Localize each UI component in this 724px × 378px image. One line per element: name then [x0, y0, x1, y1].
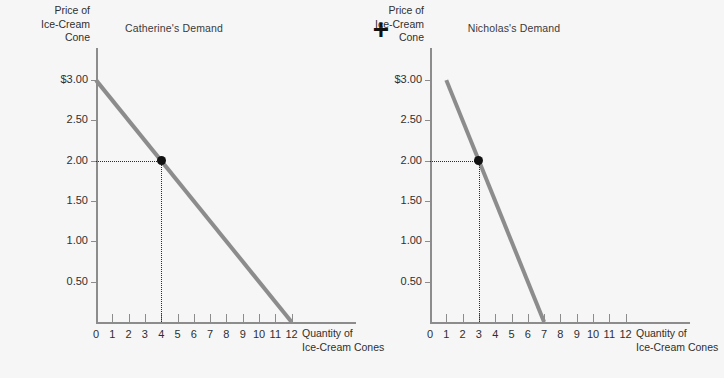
- y-axis-title-catherine: Price of Ice-Cream Cone: [10, 4, 90, 45]
- price-guide-line-nicholas: [430, 161, 479, 162]
- x-tick-mark: [495, 314, 496, 322]
- x-tick-mark: [446, 314, 447, 322]
- plot-area-nicholas: Price of Ice-Cream Cone Quantity of Ice-…: [430, 48, 690, 328]
- x-tick-mark: [112, 314, 113, 322]
- y-tick-mark: [91, 282, 98, 283]
- x-tick-mark: [593, 314, 594, 322]
- y-axis-title-line3: Cone: [399, 31, 424, 43]
- x-tick-mark: [210, 314, 211, 322]
- demand-curve-nicholas: [430, 48, 690, 328]
- x-tick-mark: [292, 314, 293, 322]
- x-tick-mark: [577, 314, 578, 322]
- x-tick-mark: [528, 314, 529, 322]
- y-axis-title-line1: Price of: [54, 4, 90, 16]
- x-tick-label: 12: [616, 328, 636, 340]
- y-tick-label: 2.00: [352, 154, 422, 166]
- x-tick-mark: [544, 314, 545, 322]
- y-axis-title-nicholas: Price of Ice-Cream Cone: [344, 4, 424, 45]
- y-tick-label: 0.50: [18, 275, 88, 287]
- y-tick-mark: [91, 80, 98, 81]
- y-tick-label: 1.50: [18, 194, 88, 206]
- panel-nicholas: Nicholas's Demand Price of Ice-Cream Con…: [334, 0, 696, 378]
- price-guide-line-catherine: [96, 161, 161, 162]
- x-axis-title-line2: Ice-Cream Cones: [636, 340, 724, 354]
- x-tick-mark: [275, 314, 276, 322]
- y-tick-label: 1.00: [352, 234, 422, 246]
- y-tick-mark: [425, 80, 432, 81]
- y-tick-mark: [425, 241, 432, 242]
- y-tick-mark: [425, 120, 432, 121]
- x-tick-mark: [512, 314, 513, 322]
- x-tick-mark: [226, 314, 227, 322]
- y-axis-title-line2: Ice-Cream: [41, 18, 90, 30]
- x-tick-mark: [178, 314, 179, 322]
- x-tick-mark: [560, 314, 561, 322]
- y-tick-label: 1.00: [18, 234, 88, 246]
- x-tick-mark: [463, 314, 464, 322]
- x-tick-label: 12: [282, 328, 302, 340]
- x-tick-mark: [259, 314, 260, 322]
- y-tick-mark: [91, 201, 98, 202]
- plot-area-catherine: Price of Ice-Cream Cone Quantity of Ice-…: [96, 48, 356, 328]
- y-axis-title-line1: Price of: [388, 4, 424, 16]
- y-tick-label: 2.50: [352, 113, 422, 125]
- quantity-guide-line-catherine: [161, 161, 162, 322]
- panel-catherine: Catherine's Demand Price of Ice-Cream Co…: [0, 0, 362, 378]
- y-tick-label: 2.50: [18, 113, 88, 125]
- x-tick-mark: [145, 314, 146, 322]
- demand-point-marker-catherine: [157, 156, 166, 165]
- x-tick-mark: [626, 314, 627, 322]
- y-tick-mark: [91, 120, 98, 121]
- x-tick-mark: [609, 314, 610, 322]
- y-tick-label: 0.50: [352, 275, 422, 287]
- y-tick-label: 1.50: [352, 194, 422, 206]
- y-tick-mark: [425, 282, 432, 283]
- y-axis-title-line3: Cone: [65, 31, 90, 43]
- y-tick-mark: [91, 241, 98, 242]
- y-tick-label: 2.00: [18, 154, 88, 166]
- y-tick-mark: [425, 201, 432, 202]
- x-tick-mark: [243, 314, 244, 322]
- quantity-guide-line-nicholas: [479, 161, 480, 322]
- x-axis-title-nicholas: Quantity of Ice-Cream Cones: [636, 326, 724, 354]
- y-tick-label: $3.00: [352, 73, 422, 85]
- demand-curve-catherine: [96, 48, 356, 328]
- y-tick-label: $3.00: [18, 73, 88, 85]
- x-axis-title-line1: Quantity of: [636, 327, 687, 339]
- x-tick-mark: [194, 314, 195, 322]
- figure-canvas: Catherine's Demand Price of Ice-Cream Co…: [0, 0, 724, 378]
- x-tick-mark: [129, 314, 130, 322]
- y-axis-title-line2: Ice-Cream: [375, 18, 424, 30]
